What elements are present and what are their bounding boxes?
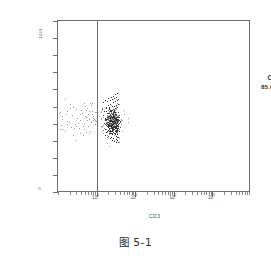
scatter-dot [59, 113, 60, 114]
scatter-dot [112, 134, 113, 135]
scatter-dot [113, 102, 114, 103]
scatter-dot [116, 112, 117, 113]
scatter-dot [80, 114, 81, 115]
scatter-dot [111, 97, 112, 98]
scatter-dot [118, 112, 119, 113]
scatter-dot [76, 140, 77, 141]
scatter-dot [115, 124, 116, 125]
scatter-dot [107, 132, 108, 133]
x-axis-minor-tick [154, 192, 155, 195]
scatter-dot [84, 123, 85, 124]
scatter-dot [86, 110, 87, 111]
scatter-dot [119, 117, 120, 118]
scatter-dot [93, 118, 94, 119]
scatter-dot [107, 116, 108, 117]
scatter-dot [88, 114, 89, 115]
scatter-dot [124, 114, 125, 115]
scatter-dot [74, 128, 75, 129]
figure-caption: 图 5-1 [0, 234, 271, 249]
scatter-dot [114, 135, 115, 136]
scatter-dot [93, 120, 94, 121]
x-axis-tick-label: 100 [92, 195, 99, 200]
y-axis-tick [53, 175, 58, 176]
y-axis-tick [53, 55, 58, 56]
x-axis-minor-tick [70, 192, 71, 195]
scatter-dot [118, 127, 119, 128]
scatter-dot [115, 134, 116, 135]
scatter-dot [119, 104, 120, 105]
x-axis-minor-tick [58, 192, 59, 195]
x-axis-minor-tick [201, 192, 202, 195]
y-axis-max-label: 1023 [38, 28, 43, 38]
scatter-dot [118, 122, 119, 123]
scatter-dot [77, 118, 78, 119]
scatter-dot [110, 124, 111, 125]
scatter-dot [102, 127, 103, 128]
scatter-dot [107, 101, 108, 102]
scatter-dot [107, 123, 108, 124]
x-axis-minor-tick [197, 192, 198, 195]
scatter-dot [80, 133, 81, 134]
plot-area[interactable]: C 85.6% [57, 20, 250, 192]
y-axis-tick [53, 21, 58, 22]
x-axis-minor-tick [185, 192, 186, 195]
scatter-dot [102, 108, 103, 109]
scatter-dot [109, 115, 110, 116]
scatter-dot [117, 140, 118, 141]
x-axis-minor-tick [204, 192, 205, 195]
scatter-dot [102, 131, 103, 132]
scatter-dot [112, 99, 113, 100]
gate-threshold-line[interactable] [97, 21, 98, 193]
scatter-dot [109, 117, 110, 118]
scatter-dot [67, 111, 68, 112]
scatter-dot [108, 105, 109, 106]
region-label: C [250, 73, 271, 82]
scatter-dot [113, 111, 114, 112]
scatter-dot [60, 129, 61, 130]
scatter-dot [76, 126, 77, 127]
scatter-dot [106, 108, 107, 109]
scatter-dot [93, 116, 94, 117]
scatter-dot [115, 117, 116, 118]
scatter-dot [92, 111, 93, 112]
y-axis-tick [53, 141, 58, 142]
scatter-dot [115, 116, 116, 117]
scatter-dot [103, 115, 104, 116]
y-axis-tick [53, 89, 58, 90]
scatter-dot [118, 125, 119, 126]
scatter-dot [124, 110, 125, 111]
scatter-dot [113, 118, 114, 119]
scatter-dot [108, 98, 109, 99]
scatter-dot [62, 119, 63, 120]
scatter-dot [88, 126, 89, 127]
x-axis-minor-tick [245, 192, 246, 195]
scatter-dot [111, 137, 112, 138]
scatter-dot [91, 105, 92, 106]
region-statistics: C 85.6% [250, 73, 271, 91]
scatter-dot [91, 122, 92, 123]
scatter-dot [81, 110, 82, 111]
scatter-dot [73, 135, 74, 136]
scatter-dot [117, 100, 118, 101]
scatter-dot [89, 119, 90, 120]
scatter-dot [104, 111, 105, 112]
scatter-dot [110, 130, 111, 131]
scatter-dot [128, 118, 129, 119]
scatter-dot [99, 116, 100, 117]
scatter-dot [70, 108, 71, 109]
scatter-dot [113, 125, 114, 126]
scatter-dot [107, 137, 108, 138]
scatter-dot [121, 124, 122, 125]
scatter-dot [89, 133, 90, 134]
scatter-dot [103, 102, 104, 103]
scatter-dot [114, 124, 115, 125]
scatter-dot [114, 106, 115, 107]
scatter-dot [66, 114, 67, 115]
region-percent-value: 85.6% [250, 82, 271, 91]
scatter-dot [119, 142, 120, 143]
scatter-dot [113, 121, 114, 122]
scatter-dot [112, 127, 113, 128]
scatter-dot [84, 129, 85, 130]
x-axis-minor-tick [127, 192, 128, 195]
scatter-dot [85, 106, 86, 107]
